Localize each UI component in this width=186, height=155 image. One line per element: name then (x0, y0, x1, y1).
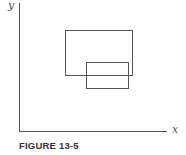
large-rectangle (66, 31, 133, 76)
x-axis-label: x (172, 124, 178, 135)
figure-canvas (0, 0, 186, 155)
figure-caption: FIGURE 13-5 (19, 141, 79, 151)
y-axis-label: y (8, 0, 14, 11)
